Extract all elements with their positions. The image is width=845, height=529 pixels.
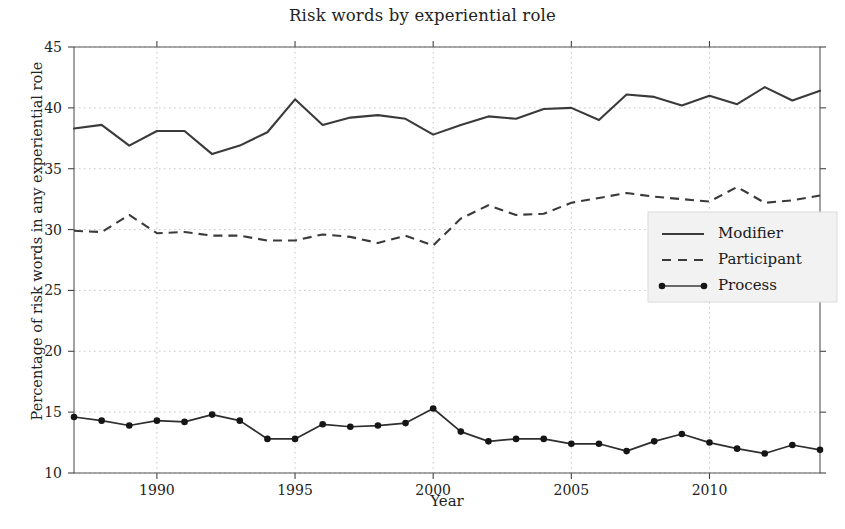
y-tick-label: 25 [44,282,62,298]
data-point-marker [126,422,133,429]
data-point-marker [209,411,216,418]
data-point-marker [679,431,686,438]
data-point-marker [347,423,354,430]
data-point-marker [789,442,796,449]
x-tick-label: 2005 [554,482,590,498]
data-point-marker [319,421,326,428]
data-point-marker [264,436,271,443]
y-tick-label: 45 [44,39,62,55]
x-tick-label: 1990 [139,482,175,498]
data-point-marker [623,448,630,455]
data-point-marker [706,439,713,446]
data-point-marker [292,436,299,443]
y-tick-label: 40 [44,100,62,116]
data-point-marker [540,436,547,443]
data-point-marker [761,450,768,457]
data-point-marker [734,445,741,452]
data-point-marker [651,438,658,445]
chart-figure: Risk words by experiential role Percenta… [0,0,845,529]
x-tick-label: 1995 [277,482,313,498]
data-point-marker [568,440,575,447]
legend-label-participant: Participant [718,250,802,268]
data-point-marker [458,428,465,435]
y-tick-label: 15 [44,404,62,420]
chart-legend: ModifierParticipantProcess [648,212,837,302]
series-line-modifier [74,87,820,154]
data-point-marker [154,417,161,424]
plot-area: 101520253035404519901995200020052010 Mod… [0,0,845,529]
x-tick-label: 2000 [415,482,451,498]
y-tick-label: 30 [44,222,62,238]
data-point-marker [596,440,603,447]
legend-swatch-marker [701,283,708,290]
data-point-marker [181,419,188,426]
data-point-marker [98,417,105,424]
x-tick-label: 2010 [692,482,728,498]
legend-label-process: Process [718,276,777,294]
data-point-marker [375,422,382,429]
data-point-marker [513,436,520,443]
data-point-marker [236,417,243,424]
data-point-marker [402,420,409,427]
series-line-process [74,408,820,453]
data-point-marker [485,438,492,445]
data-point-marker [71,414,78,421]
legend-label-modifier: Modifier [718,224,784,242]
legend-swatch-marker [659,283,666,290]
y-tick-label: 35 [44,161,62,177]
y-tick-label: 10 [44,465,62,481]
y-tick-label: 20 [44,343,62,359]
data-point-marker [430,405,437,412]
data-point-marker [817,447,824,454]
